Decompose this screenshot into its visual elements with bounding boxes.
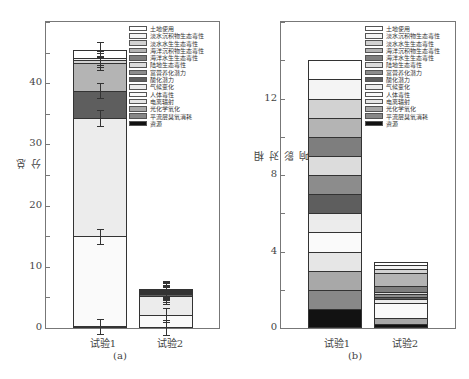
error-bar (100, 110, 101, 127)
y-tick (46, 83, 50, 84)
bar-segment (374, 286, 428, 292)
error-bar-cap (97, 126, 104, 127)
error-bar-cap (163, 302, 170, 303)
legend-item: 电离辐射 (365, 98, 440, 105)
legend-label: 淡水沉积物生态毒性 (150, 32, 204, 39)
bar-segment (374, 318, 428, 324)
y-tick (46, 53, 50, 54)
y-tick (281, 137, 285, 138)
y-tick-label: 40 (22, 76, 42, 87)
y-tick (281, 213, 285, 214)
error-bar (100, 319, 101, 334)
legend-label: 海洋沉积物生态毒性 (386, 47, 440, 54)
legend-label: 平流层臭氧消耗 (150, 113, 192, 120)
legend-swatch (129, 70, 147, 76)
legend-swatch (129, 26, 147, 32)
legend-label: 人体毒性 (386, 91, 410, 98)
legend-label: 光化学氧化 (386, 105, 416, 112)
x-category-b-2: 试验2 (375, 335, 435, 350)
bar-segment (308, 137, 362, 156)
legend-swatch (129, 40, 147, 46)
bar-segment (374, 294, 428, 298)
bar-segment (308, 271, 362, 290)
legend-item: 海洋水生生态毒性 (365, 54, 440, 61)
legend-swatch (365, 70, 383, 76)
y-tick-label: 12 (257, 92, 277, 103)
bar-segment (374, 265, 428, 269)
error-bar-cap (97, 42, 104, 43)
legend-item: 淡水水生生态毒性 (129, 40, 204, 47)
legend-swatch (129, 33, 147, 39)
legend-swatch (129, 99, 147, 105)
bar-segment (374, 273, 428, 286)
plot-area-a: 土地使用淡水沉积物生态毒性淡水水生生态毒性海洋沉积物生态毒性海洋水生生态毒性陆地… (45, 21, 220, 329)
legend-swatch (365, 33, 383, 39)
bar-segment (308, 232, 362, 251)
bar-segment (374, 297, 428, 299)
legend-label: 富营养化潜力 (386, 69, 422, 76)
error-bar-cap (97, 70, 104, 71)
legend-label: 光化学氧化 (150, 105, 180, 112)
y-tick-label: 0 (257, 321, 277, 332)
caption-b: (b) (340, 350, 370, 361)
legend-item: 酸化潜力 (129, 76, 204, 83)
error-bar-cap (97, 57, 104, 58)
y-tick (281, 252, 285, 253)
bar-segment (374, 303, 428, 318)
error-bar-cap (163, 296, 170, 297)
legend-swatch (365, 55, 383, 61)
bar-segment (308, 175, 362, 194)
legend-item: 光化学氧化 (365, 105, 440, 112)
x-category-b-1: 试验1 (307, 335, 367, 350)
error-bar (166, 308, 167, 323)
y-tick-label: 8 (257, 168, 277, 179)
legend-item: 电离辐射 (129, 98, 204, 105)
y-tick (46, 297, 50, 298)
legend-swatch (129, 62, 147, 68)
bar-segment (374, 269, 428, 273)
bar-segment (308, 290, 362, 309)
legend-label: 酸化潜力 (150, 76, 174, 83)
bar-segment (374, 299, 428, 303)
legend-label: 富营养化潜力 (150, 69, 186, 76)
bar-segment (73, 118, 127, 236)
bar-segment (308, 252, 362, 271)
stacked-bar-1 (308, 22, 362, 328)
legend-swatch (129, 48, 147, 54)
legend: 土地使用淡水沉积物生态毒性淡水水生生态毒性海洋沉积物生态毒性海洋水生生态毒性陆地… (129, 25, 204, 127)
legend-label: 土地使用 (150, 25, 174, 32)
y-tick-label: 4 (257, 245, 277, 256)
error-bar-cap (163, 308, 170, 309)
legend-label: 淡水水生生态毒性 (150, 40, 198, 47)
legend-label: 平流层臭氧消耗 (386, 113, 428, 120)
error-bar (100, 42, 101, 57)
legend-swatch (365, 77, 383, 83)
legend-label: 酸化潜力 (386, 76, 410, 83)
y-tick (46, 206, 50, 207)
error-bar-cap (163, 300, 170, 301)
legend-label: 资源 (150, 120, 162, 127)
bar-segment (308, 309, 362, 328)
y-tick (281, 290, 285, 291)
bar-segment (308, 60, 362, 79)
y-tick (281, 175, 285, 176)
legend-label: 海洋水生生态毒性 (386, 54, 434, 61)
legend-item: 资源 (365, 120, 440, 127)
legend-swatch (365, 26, 383, 32)
legend-item: 陆地生态毒性 (129, 61, 204, 68)
bar-segment (374, 262, 428, 265)
legend-item: 人体毒性 (129, 91, 204, 98)
legend-item: 淡水沉积物生态毒性 (365, 32, 440, 39)
legend: 土地使用淡水沉积物生态毒性淡水水生生态毒性海洋沉积物生态毒性海洋水生生态毒性陆地… (365, 25, 440, 127)
y-tick (46, 114, 50, 115)
legend-swatch (129, 121, 147, 127)
y-tick (46, 22, 50, 23)
legend-label: 陆地生态毒性 (386, 61, 422, 68)
y-tick-label: 10 (22, 260, 42, 271)
legend-label: 人体毒性 (150, 91, 174, 98)
legend-item: 富营养化潜力 (365, 69, 440, 76)
bar-segment (308, 99, 362, 118)
error-bar-cap (97, 65, 104, 66)
legend-label: 气候变化 (150, 83, 174, 90)
bar-segment (374, 324, 428, 328)
